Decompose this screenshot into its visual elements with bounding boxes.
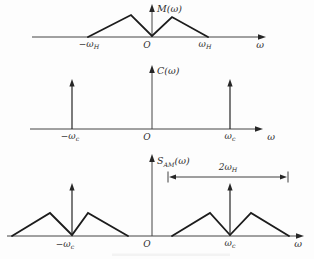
y-axis-arrow-icon	[149, 154, 155, 162]
tick-omega-h: ωH	[199, 39, 212, 50]
origin-label: O	[143, 239, 151, 249]
x-axis-label: ω	[294, 238, 302, 249]
origin-label: O	[143, 132, 151, 142]
cropped-caption-remnant	[112, 254, 230, 257]
bandwidth-label: 2ωH	[218, 162, 238, 173]
y-axis-arrow-icon	[149, 4, 155, 12]
message-spectrum-curve	[88, 15, 208, 37]
lower-sideband-curve	[12, 213, 128, 236]
x-axis-arrow-icon	[255, 126, 263, 132]
arrow-right-icon	[280, 175, 287, 180]
am-spectrum-plot: 2ωH SAM(ω) ω −ωc O ωc	[7, 154, 304, 250]
tick-minus-omega-h: −ωH	[79, 39, 100, 50]
impulse-arrow-icon	[69, 79, 74, 87]
tick-omega-c: ωc	[225, 131, 236, 142]
impulse-arrow-icon	[227, 183, 232, 191]
tick-minus-omega-c: −ωc	[61, 131, 80, 142]
tick-omega-c: ωc	[225, 238, 236, 249]
origin-label: O	[143, 40, 151, 50]
x-axis-label: ω	[256, 39, 264, 50]
y-axis-label: SAM(ω)	[157, 155, 190, 168]
arrow-left-icon	[169, 175, 176, 180]
tick-minus-omega-c: −ωc	[56, 239, 75, 250]
x-axis-label: ω	[267, 131, 275, 142]
y-axis-label: C(ω)	[157, 65, 180, 76]
y-axis-arrow-icon	[149, 65, 155, 73]
impulse-arrow-icon	[69, 183, 74, 191]
am-spectra-figure: M(ω) ω −ωH O ωH C(ω) ω −ωc O ωc	[0, 0, 314, 259]
message-spectrum-plot: M(ω) ω −ωH O ωH	[32, 3, 266, 50]
impulse-arrow-icon	[227, 79, 232, 87]
y-axis-label: M(ω)	[156, 3, 182, 14]
carrier-spectrum-plot: C(ω) ω −ωc O ωc	[30, 65, 275, 142]
